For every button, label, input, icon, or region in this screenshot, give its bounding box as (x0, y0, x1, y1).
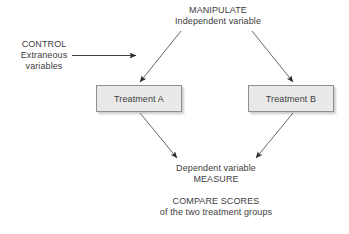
control-label-line3: variables (21, 61, 68, 72)
treatment-b-label: Treatment B (266, 94, 316, 104)
manipulate-label-line1: MANIPULATE (175, 5, 261, 16)
control-label-line2: Extraneous (21, 50, 68, 61)
compare-label-line1: COMPARE SCORES (160, 196, 272, 207)
treatment-a-box[interactable]: Treatment A (96, 85, 182, 112)
experimental-design-diagram: MANIPULATE Independent variable CONTROL … (0, 0, 349, 234)
control-label-line1: CONTROL (21, 39, 68, 50)
dependent-label-line2: MEASURE (176, 174, 256, 185)
manipulate-to-treatment-b-arrow (252, 31, 293, 82)
compare-scores-label: COMPARE SCORES of the two treatment grou… (160, 196, 272, 218)
manipulate-to-treatment-a-arrow (140, 31, 181, 82)
treatment-a-label: Treatment A (114, 94, 164, 104)
dependent-variable-label: Dependent variable MEASURE (176, 163, 256, 185)
control-label: CONTROL Extraneous variables (21, 39, 68, 72)
dependent-label-line1: Dependent variable (176, 163, 256, 174)
manipulate-label-line2: Independent variable (175, 16, 261, 27)
compare-label-line2: of the two treatment groups (160, 207, 272, 218)
treatment-b-to-dependent-arrow (256, 113, 293, 158)
treatment-a-to-dependent-arrow (140, 113, 177, 158)
manipulate-label: MANIPULATE Independent variable (175, 5, 261, 27)
treatment-b-box[interactable]: Treatment B (248, 85, 334, 112)
